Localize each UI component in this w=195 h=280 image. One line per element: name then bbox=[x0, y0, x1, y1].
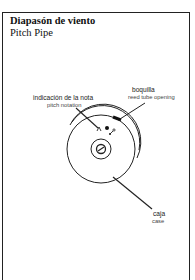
pitch-pipe-diagram bbox=[0, 0, 195, 276]
